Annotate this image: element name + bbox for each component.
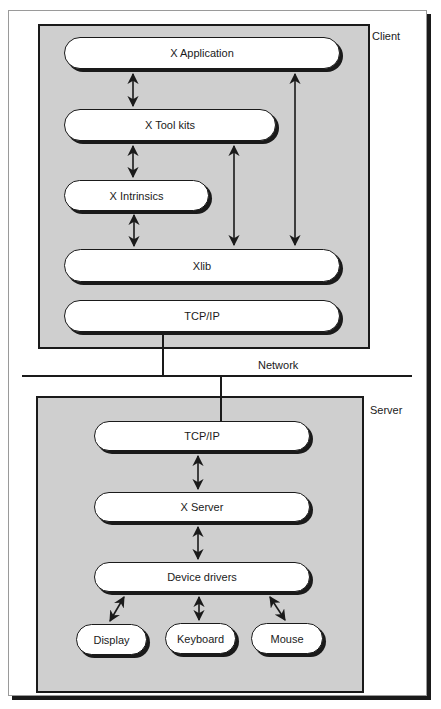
arrow-drivers-display <box>110 597 124 621</box>
arrow-drivers-mouse <box>270 597 285 620</box>
connector-lines <box>0 0 441 709</box>
